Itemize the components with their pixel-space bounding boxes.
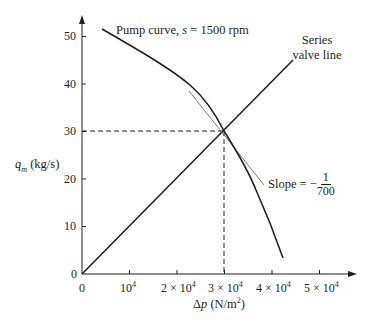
y-label-unit: (kg/s) (27, 157, 59, 171)
y-tick-10: 10 (64, 220, 76, 232)
valve-label-line1: Series (280, 34, 354, 47)
y-tick-30: 30 (64, 125, 76, 137)
x-label-delta: Δ (193, 297, 201, 311)
pump-curve-label: Pump curve, s = 1500 rpm (116, 24, 249, 37)
x-tick-4e4-base: 4 × 10 (256, 281, 287, 295)
x-label-close: ) (241, 297, 245, 311)
y-axis-label: qm (kg/s) (15, 158, 59, 174)
slope-label-prefix: Slope = − (268, 177, 317, 191)
y-tick-40: 40 (64, 78, 76, 90)
x-tick-4e4: 4 × 104 (256, 282, 291, 294)
series-valve-line (82, 60, 293, 274)
slope-denominator: 700 (317, 185, 335, 198)
pump-curve (102, 29, 283, 258)
x-tick-1e4: 104 (120, 282, 136, 294)
x-tick-4e4-exp: 4 (287, 280, 291, 289)
x-tick-1e4-base: 10 (120, 281, 132, 295)
tangent-line (189, 91, 264, 185)
x-tick-5e4: 5 × 104 (304, 282, 339, 294)
x-tick-5e4-exp: 4 (335, 280, 339, 289)
y-tick-50: 50 (64, 30, 76, 42)
x-tick-1e4-exp: 4 (132, 280, 136, 289)
x-label-unit: (N/m (207, 297, 237, 311)
pump-label-prefix: Pump curve, (116, 23, 182, 37)
x-tick-3e4-exp: 4 (239, 280, 243, 289)
x-tick-3e4-base: 3 × 10 (208, 281, 239, 295)
slope-fraction: 1700 (317, 171, 335, 197)
y-axis-arrow-icon (79, 15, 85, 24)
x-axis-label: Δp (N/m2) (193, 298, 245, 311)
x-tick-2e4-exp: 4 (192, 280, 196, 289)
x-tick-5e4-base: 5 × 10 (304, 281, 335, 295)
pump-label-suffix: = 1500 rpm (187, 23, 249, 37)
valve-label-line2: valve line (280, 49, 354, 62)
slope-numerator: 1 (321, 171, 331, 185)
y-tick-20: 20 (64, 173, 76, 185)
y-tick-0: 0 (71, 268, 77, 280)
x-tick-0: 0 (79, 282, 85, 294)
slope-annotation: Slope = −1700 (268, 171, 335, 197)
x-tick-3e4: 3 × 104 (208, 282, 243, 294)
x-tick-2e4-base: 2 × 10 (161, 281, 192, 295)
valve-line-label: Series valve line (280, 34, 354, 61)
x-tick-2e4: 2 × 104 (161, 282, 196, 294)
x-axis-arrow-icon (348, 271, 357, 277)
